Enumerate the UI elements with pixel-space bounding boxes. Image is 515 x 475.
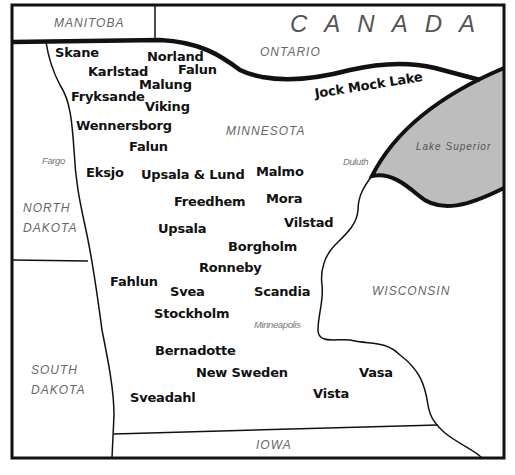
region-label-wisconsin: WISCONSIN: [372, 284, 450, 298]
town-label: Ronneby: [199, 260, 262, 275]
town-label: Fahlun: [110, 274, 158, 289]
region-label-north-dakota-line2: DAKOTA: [23, 221, 77, 235]
town-label: Falun: [129, 139, 168, 154]
town-label: Skane: [55, 45, 99, 60]
town-label: Vilstad: [284, 215, 333, 230]
lake-superior-label: Lake Superior: [416, 141, 491, 152]
town-label: Vasa: [359, 365, 393, 380]
city-label-minneapolis: Minneapolis: [254, 319, 300, 330]
map-canvas: [0, 0, 515, 475]
town-label: Borgholm: [228, 239, 297, 254]
region-label-ontario: ONTARIO: [260, 45, 321, 59]
town-label: Sveadahl: [130, 390, 196, 405]
region-label-south-dakota-line2: DAKOTA: [31, 383, 85, 397]
country-label-canada: CANADA: [290, 10, 492, 38]
region-label-iowa: IOWA: [256, 438, 292, 452]
town-label: Scandia: [254, 284, 310, 299]
town-label: Vista: [313, 386, 349, 401]
city-label-duluth: Duluth: [343, 156, 368, 167]
town-label: Bernadotte: [155, 343, 236, 358]
town-label: New Sweden: [196, 365, 288, 380]
wisconsin-border: [318, 176, 482, 458]
town-label: Upsala & Lund: [141, 167, 245, 182]
town-label: Eksjo: [86, 165, 124, 180]
region-label-manitoba: MANITOBA: [54, 16, 124, 30]
nd-sd-border: [12, 260, 88, 261]
town-label: Mora: [266, 191, 302, 206]
region-label-north-dakota-line1: NORTH: [23, 201, 70, 215]
region-label-minnesota: MINNESOTA: [226, 124, 305, 138]
town-label: Fryksande: [71, 89, 145, 104]
iowa-border: [114, 425, 438, 434]
region-label-south-dakota-line1: SOUTH: [31, 363, 78, 377]
town-label: Svea: [170, 284, 205, 299]
town-label: Falun: [178, 62, 217, 77]
town-label: Stockholm: [154, 306, 229, 321]
town-label: Viking: [145, 99, 190, 114]
city-label-fargo: Fargo: [42, 155, 65, 166]
town-label: Upsala: [158, 221, 206, 236]
town-label: Freedhem: [174, 194, 245, 209]
town-label: Malung: [139, 77, 192, 92]
town-label: Malmo: [256, 164, 304, 179]
town-label: Wennersborg: [76, 118, 172, 133]
